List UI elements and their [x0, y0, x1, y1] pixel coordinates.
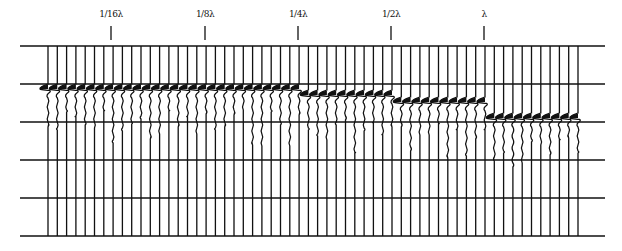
- wiggle-trace: [393, 46, 403, 236]
- marker-label: 1/2λ: [382, 9, 400, 19]
- marker-label: 1/16λ: [99, 9, 122, 19]
- wiggle-trace: [458, 46, 468, 236]
- marker-label: 1/8λ: [196, 9, 214, 19]
- wiggle-trace: [124, 46, 134, 236]
- wiggle-trace: [291, 46, 301, 236]
- wiggle-trace: [449, 46, 459, 236]
- wiggle-trace: [77, 46, 87, 236]
- wiggle-trace: [282, 46, 292, 236]
- wiggle-trace: [151, 46, 161, 236]
- wiggle-trace: [207, 46, 217, 236]
- wiggle-trace: [198, 46, 208, 236]
- wiggle-trace: [244, 46, 254, 236]
- wiggle-trace: [226, 46, 236, 236]
- wiggle-trace: [133, 46, 143, 236]
- wiggle-trace: [263, 46, 273, 236]
- wiggle-trace: [496, 46, 506, 236]
- wiggle-trace: [235, 46, 245, 236]
- wiggle-trace: [403, 46, 413, 236]
- timing-lines: [20, 46, 605, 236]
- wiggle-trace: [254, 46, 264, 236]
- wiggle-trace: [551, 46, 561, 236]
- wiggle-trace: [486, 46, 496, 236]
- wiggle-trace: [384, 46, 394, 236]
- wiggle-trace: [58, 46, 68, 236]
- wiggle-trace: [310, 46, 320, 236]
- marker-label: 1/4λ: [289, 9, 307, 19]
- wiggle-trace: [40, 46, 50, 236]
- wiggle-trace: [570, 46, 580, 236]
- wiggle-trace: [328, 46, 338, 236]
- wiggle-trace: [365, 46, 375, 236]
- wiggle-trace: [68, 46, 78, 236]
- wiggle-traces: [40, 46, 580, 236]
- wiggle-trace: [421, 46, 431, 236]
- wiggle-trace: [49, 46, 59, 236]
- wiggle-trace: [170, 46, 180, 236]
- wiggle-trace: [272, 46, 282, 236]
- wiggle-trace: [505, 46, 515, 236]
- wiggle-trace: [347, 46, 357, 236]
- wiggle-trace: [300, 46, 310, 236]
- wiggle-trace: [96, 46, 106, 236]
- wiggle-trace: [561, 46, 571, 236]
- wiggle-trace: [179, 46, 189, 236]
- wiggle-trace: [114, 46, 124, 236]
- wiggle-trace: [468, 46, 478, 236]
- wiggle-trace: [430, 46, 440, 236]
- wiggle-trace: [356, 46, 366, 236]
- wiggle-trace: [514, 46, 524, 236]
- wiggle-trace: [189, 46, 199, 236]
- wiggle-trace: [533, 46, 543, 236]
- wiggle-trace: [337, 46, 347, 236]
- wiggle-trace: [105, 46, 115, 236]
- trace-section-plot: [0, 0, 622, 251]
- wiggle-trace: [217, 46, 227, 236]
- wiggle-trace: [440, 46, 450, 236]
- wiggle-trace: [161, 46, 171, 236]
- wiggle-trace: [86, 46, 96, 236]
- wiggle-trace: [142, 46, 152, 236]
- wiggle-trace: [523, 46, 533, 236]
- marker-label: λ: [481, 9, 486, 19]
- wiggle-trace: [375, 46, 385, 236]
- wiggle-trace: [319, 46, 329, 236]
- seismic-figure: 1/16λ1/8λ1/4λ1/2λλ: [0, 0, 622, 251]
- wiggle-trace: [477, 46, 487, 236]
- wiggle-trace: [412, 46, 422, 236]
- wiggle-trace: [542, 46, 552, 236]
- marker-ticks: [111, 26, 484, 40]
